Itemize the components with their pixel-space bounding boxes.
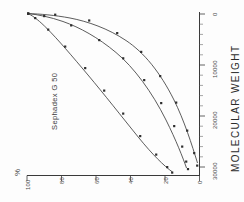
- plot-annotation: Sephadex G 50: [50, 73, 59, 130]
- pct-tick-label-100: 100: [25, 179, 31, 190]
- percent-ticks: [27, 176, 200, 182]
- mw-minor-ticks: [200, 24, 204, 157]
- mw-tick-label-30000: 30000: [212, 162, 218, 180]
- pct-tick-label-20: 20: [163, 177, 169, 184]
- mw-major-ticks: [200, 14, 206, 167]
- mw-tick-label-20000: 20000: [212, 111, 218, 129]
- figure-canvas: 0 10000 20000 30000 MOLECULAR WEIGHT 0 2…: [0, 0, 244, 202]
- pct-tick-label-80: 80: [59, 177, 65, 184]
- plot-area: [0, 0, 244, 202]
- mw-tick-label-10000: 10000: [212, 60, 218, 78]
- y-axis-title: %: [13, 169, 22, 176]
- pct-tick-label-60: 60: [94, 177, 100, 184]
- mw-tick-label-0: 0: [212, 12, 218, 16]
- x-axis-title: MOLECULAR WEIGHT: [230, 45, 241, 172]
- pct-tick-label-0: 0: [197, 180, 203, 184]
- pct-tick-label-40: 40: [128, 177, 134, 184]
